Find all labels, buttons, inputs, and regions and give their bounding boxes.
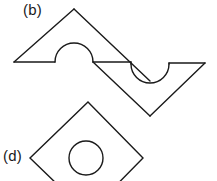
figure-label-b: (b) xyxy=(23,1,42,18)
figure-background xyxy=(0,0,217,181)
figure-label-d: (d) xyxy=(3,147,22,164)
geometry-figure-canvas xyxy=(0,0,217,181)
